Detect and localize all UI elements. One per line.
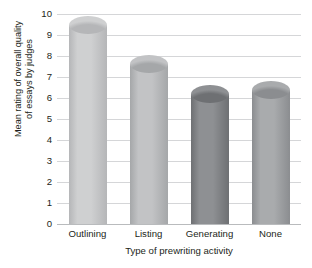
bar-body — [191, 94, 229, 224]
y-axis-tick-label: 2 — [12, 177, 52, 187]
bar-top-cap — [252, 81, 290, 99]
y-axis-tick-label: 1 — [12, 198, 52, 208]
bar-body — [69, 25, 107, 225]
y-axis-tick-label: 8 — [12, 51, 52, 61]
bar — [252, 81, 290, 224]
plot-area — [57, 14, 301, 224]
y-axis-tick-label: 7 — [12, 72, 52, 82]
bar-top-cap — [191, 85, 229, 103]
x-axis-tick-label: None — [221, 228, 312, 239]
bar — [191, 85, 229, 224]
y-axis-tick-label: 4 — [12, 135, 52, 145]
y-axis-tick-label: 6 — [12, 93, 52, 103]
y-axis-tick-label: 10 — [12, 9, 52, 19]
y-axis-tick-label: 5 — [12, 114, 52, 124]
y-axis-tick-label: 9 — [12, 30, 52, 40]
bar-top-cap — [69, 16, 107, 34]
bar-body — [252, 90, 290, 224]
bar-body — [130, 64, 168, 224]
gridline — [57, 224, 301, 225]
bar — [69, 16, 107, 225]
bar — [130, 55, 168, 224]
x-axis-title: Type of prewriting activity — [57, 245, 301, 256]
bar-chart: Mean rating of overall quality of essays… — [0, 0, 311, 268]
y-axis-tick-label: 3 — [12, 156, 52, 166]
